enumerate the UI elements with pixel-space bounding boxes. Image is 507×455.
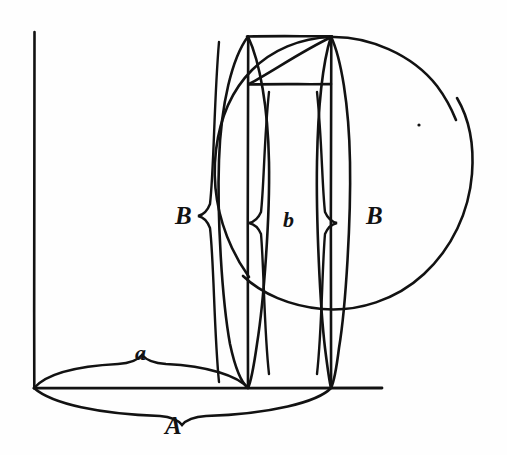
circle-arc-right <box>243 98 472 309</box>
figure-container: B b B a A <box>0 0 507 455</box>
label-b-mid: b <box>283 209 294 231</box>
lens-left-outer-curve <box>219 37 248 388</box>
label-B-right: B <box>366 203 383 228</box>
brace-B-right <box>317 92 337 374</box>
label-a-small: a <box>135 342 146 364</box>
brace-group-horizontal <box>34 355 331 425</box>
lens-right-outer-curve <box>331 37 350 388</box>
lens-right-group <box>317 37 350 388</box>
diagram-canvas <box>0 0 507 455</box>
brace-B-left <box>198 42 219 382</box>
brace-A-large <box>34 388 331 425</box>
label-B-left: B <box>175 203 192 228</box>
label-A-large: A <box>165 413 182 438</box>
circle-arc-main <box>331 37 456 120</box>
center-dot <box>417 123 420 126</box>
